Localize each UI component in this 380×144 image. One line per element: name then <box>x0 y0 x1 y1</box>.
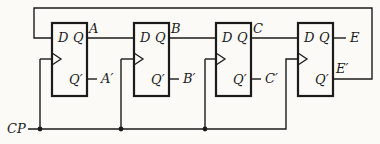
clock-edge-icon <box>298 53 307 65</box>
qbar-output-label: Q′ <box>69 72 83 87</box>
clock-edge-icon <box>216 53 225 65</box>
d-input-label: D <box>57 30 69 45</box>
q-signal-label: A <box>88 21 98 36</box>
clock-edge-icon <box>52 53 61 65</box>
flipflop-3: D Q Q′ C C′ <box>216 21 278 96</box>
junction-dot <box>119 127 124 132</box>
q-signal-label: E <box>349 30 360 45</box>
qbar-output-label: Q′ <box>315 72 329 87</box>
q-signal-label: B <box>170 21 181 36</box>
q-output-label: Q <box>155 30 166 45</box>
cp-bus-wire <box>28 59 298 129</box>
qbar-signal-label: E′ <box>335 61 348 76</box>
flipflop-2: D Q Q′ B B′ <box>134 21 196 96</box>
qbar-signal-label: B′ <box>182 71 196 86</box>
flipflop-1: D Q Q′ A A′ <box>52 21 113 96</box>
q-signal-label: C <box>253 21 263 36</box>
qbar-signal-label: A′ <box>100 71 113 86</box>
clock-label: CP <box>7 121 26 136</box>
qbar-output-label: Q′ <box>233 72 247 87</box>
q-output-label: Q <box>237 30 248 45</box>
clock-edge-icon <box>134 53 143 65</box>
q-output-label: Q <box>73 30 84 45</box>
circuit-diagram: CP D Q Q′ A A′ D Q Q′ B B′ D Q Q′ C C′ <box>0 0 380 144</box>
q-output-label: Q <box>319 30 330 45</box>
junction-dot <box>38 127 43 132</box>
qbar-output-label: Q′ <box>151 72 165 87</box>
d-input-label: D <box>303 30 315 45</box>
qbar-signal-label: C′ <box>265 71 278 86</box>
d-input-label: D <box>221 30 233 45</box>
junction-dot <box>203 127 208 132</box>
flipflop-4: D Q Q′ E E′ <box>298 23 360 96</box>
d-input-label: D <box>139 30 151 45</box>
